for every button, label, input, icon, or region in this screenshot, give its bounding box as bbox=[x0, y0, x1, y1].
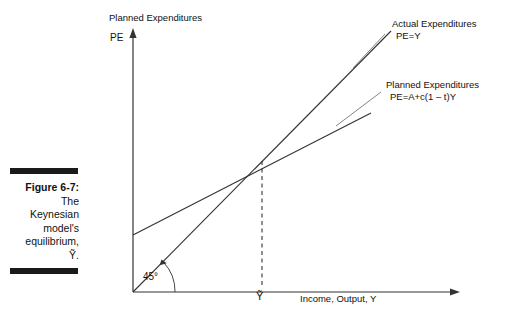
x-axis-title: Income, Output, Y bbox=[300, 293, 376, 305]
planned-expenditures-title: Planned Expenditures bbox=[386, 79, 479, 91]
angle-label: 45° bbox=[143, 271, 158, 283]
planned-label-leader bbox=[336, 92, 381, 126]
x-axis-tick-label-equilibrium: Ỹ bbox=[256, 290, 263, 302]
actual-label-leader bbox=[353, 34, 385, 68]
figure-page: Figure 6-7: The Keynesian model's equili… bbox=[0, 0, 519, 326]
actual-expenditures-title: Actual Expenditures bbox=[392, 18, 477, 30]
keynesian-cross-plot bbox=[0, 0, 519, 326]
planned-expenditures-line bbox=[133, 113, 371, 235]
planned-expenditures-equation: PE=A+c(1 – t)Y bbox=[386, 91, 479, 103]
actual-expenditures-equation: PE=Y bbox=[392, 30, 477, 42]
y-axis-title: Planned Expenditures bbox=[109, 12, 202, 24]
y-axis-arrowhead bbox=[129, 28, 136, 38]
x-axis-arrowhead bbox=[450, 288, 460, 295]
y-axis-symbol-label: PE bbox=[110, 32, 123, 44]
actual-expenditures-annotation: Actual Expenditures PE=Y bbox=[392, 18, 477, 42]
angle-arc bbox=[164, 262, 176, 292]
planned-expenditures-annotation: Planned Expenditures PE=A+c(1 – t)Y bbox=[386, 79, 479, 103]
